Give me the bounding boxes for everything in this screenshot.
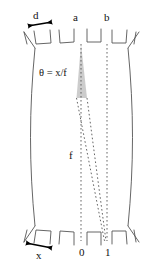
pitch-arrow — [28, 22, 52, 26]
left-wall — [31, 48, 36, 226]
top-notch-edge — [24, 29, 139, 48]
displacement-arrow — [26, 243, 52, 248]
top-shoulder-right — [128, 32, 139, 48]
right-wall — [128, 48, 133, 226]
diagram-canvas: d a b θ = x/f f x 0 1 — [0, 0, 161, 272]
top-notch-5 — [112, 30, 127, 43]
bottom-shoulder-right — [128, 226, 139, 242]
top-notch-2 — [34, 30, 51, 44]
ray-converging-right — [87, 98, 106, 241]
label-index-one: 1 — [105, 247, 111, 258]
label-pitch-d: d — [33, 10, 39, 21]
label-focal-length-f: f — [69, 150, 73, 161]
diagram-graphics — [0, 0, 161, 272]
theta-wedge — [77, 44, 88, 98]
bottom-notch-3 — [59, 231, 74, 245]
top-notch-3 — [59, 29, 74, 43]
label-displacement-x: x — [36, 250, 42, 261]
bottom-notch-2 — [34, 230, 51, 244]
label-index-zero: 0 — [79, 247, 85, 258]
label-channel-b: b — [104, 12, 110, 23]
label-channel-a: a — [73, 12, 78, 23]
bottom-notch-4 — [87, 232, 101, 245]
top-notch-4 — [87, 29, 101, 42]
ray-lines — [77, 44, 108, 241]
label-angle-equation: θ = x/f — [39, 68, 67, 79]
bottom-notch-5 — [112, 231, 127, 244]
bottom-notch-edge — [24, 226, 139, 245]
